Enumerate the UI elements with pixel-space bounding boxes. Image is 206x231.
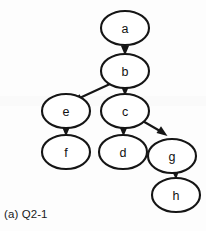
node-a[interactable]: a — [101, 11, 149, 45]
node-d-label: d — [120, 146, 127, 160]
node-f[interactable]: f — [42, 135, 90, 169]
node-h[interactable]: h — [152, 178, 200, 212]
node-h-label: h — [173, 189, 180, 203]
figure-caption: (a) Q2-1 — [4, 208, 48, 220]
node-a-label: a — [122, 22, 129, 36]
node-g[interactable]: g — [148, 139, 196, 173]
node-f-label: f — [64, 146, 68, 160]
edge-c-g-arrowhead — [157, 126, 168, 136]
node-g-label: g — [169, 150, 176, 164]
node-e-label: e — [63, 105, 70, 119]
directed-graph: a b e c f d g h — [0, 0, 206, 231]
node-c-label: c — [122, 105, 128, 119]
figure-container: a b e c f d g h (a) — [0, 0, 206, 231]
node-c[interactable]: c — [101, 94, 149, 128]
node-e[interactable]: e — [42, 94, 90, 128]
node-b-label: b — [122, 65, 129, 79]
edge-c-g — [141, 120, 168, 136]
node-b[interactable]: b — [101, 54, 149, 88]
node-d[interactable]: d — [99, 135, 147, 169]
edge-b-e-line — [79, 84, 111, 99]
